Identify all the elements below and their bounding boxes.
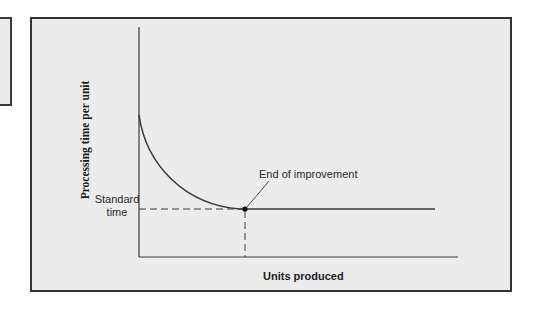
x-axis-label: Units produced [263,270,344,282]
end-of-improvement-annotation: End of improvement [259,168,357,180]
learning-curve [139,115,435,209]
standard-time-label-line1: Standard [93,193,141,206]
standard-time-label: Standard time [93,193,141,219]
end-of-improvement-point [242,206,247,211]
standard-time-label-line2: time [93,206,141,219]
y-axis-label: Processing time per unit [79,81,91,200]
annotation-leader-line [247,181,269,207]
